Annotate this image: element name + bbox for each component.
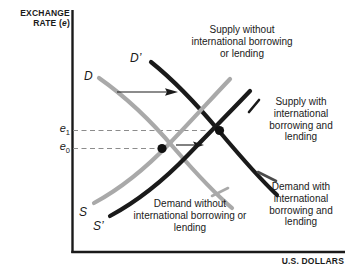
equilibrium-point-e0 bbox=[157, 144, 166, 153]
y-axis-title-close: ) bbox=[67, 18, 70, 28]
y-tick-label-e0: e0 bbox=[48, 140, 70, 156]
y-axis-title-line2: RATE ( bbox=[33, 18, 62, 28]
curve-label-S-prime: S’ bbox=[93, 219, 104, 233]
y-tick-label-e1: e1 bbox=[48, 122, 70, 138]
annotation-demand-with: Demand with international borrowing and … bbox=[254, 181, 348, 228]
curve-label-D: D bbox=[84, 69, 93, 83]
curve-label-S: S bbox=[79, 205, 87, 219]
annotation-demand-without: Demand without international borrowing o… bbox=[128, 198, 252, 233]
tick-e1-subscript: 1 bbox=[66, 128, 70, 137]
curve-label-D-prime: D’ bbox=[130, 51, 141, 65]
annotation-supply-with: Supply with international borrowing and … bbox=[254, 96, 348, 143]
y-axis-title: EXCHANGE RATE (e) bbox=[6, 8, 70, 28]
shift-arrow-demand bbox=[117, 88, 178, 96]
annotation-supply-without: Supply without international borrowing o… bbox=[186, 24, 298, 59]
x-axis-title: U.S. DOLLARS bbox=[256, 256, 344, 266]
tick-e0-subscript: 0 bbox=[66, 146, 70, 155]
y-axis-title-line1: EXCHANGE bbox=[20, 8, 70, 18]
equilibrium-point-e1 bbox=[215, 126, 224, 135]
exchange-rate-supply-demand-figure: EXCHANGE RATE (e) U.S. DOLLARS e1 e0 D D… bbox=[0, 0, 351, 273]
